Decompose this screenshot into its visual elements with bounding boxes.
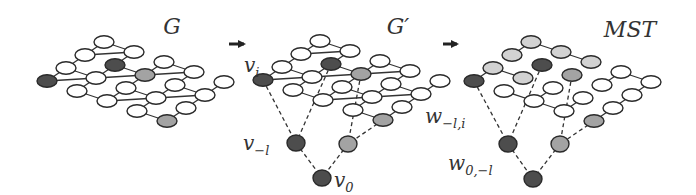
node-white [94,36,114,48]
node-white [214,76,234,88]
node-white [195,89,215,101]
diagram-canvas: GG′viv−lv0MSTw−l,iw0,−l [0,0,696,195]
node-gray [373,114,393,126]
node-white [302,71,322,83]
node-white [392,101,412,113]
panel-MST: MSTw−l,iw0,−l [425,17,661,187]
node-white [622,89,642,101]
nodes [253,35,450,186]
node-white [381,78,401,90]
node-white [291,48,311,60]
panel-G: G [37,14,234,127]
node-white [543,82,563,94]
node-white [340,45,360,57]
node-gray [351,68,371,80]
node-dark [105,59,125,71]
node-gray [584,115,604,127]
node-white [603,102,623,114]
node-white [611,66,631,78]
node-white [400,65,420,77]
node-dark [532,59,552,71]
node-white [343,104,363,116]
node-white [554,105,574,117]
node-light [513,72,533,84]
node-light [581,56,601,68]
node-white [97,95,117,107]
nodes [464,36,661,187]
node-label: v−l [243,131,269,158]
node-light [483,62,503,74]
node-white [362,91,382,103]
node-light [521,36,541,48]
node-dark [464,75,484,87]
node-white [272,61,292,73]
node-white [411,88,431,100]
node-white [75,49,95,61]
node-label: vi [244,53,259,80]
node-v_0 [313,170,331,186]
node-dark [37,75,57,87]
node-w3 [524,171,542,187]
node-white [494,85,514,97]
node-white [332,81,352,93]
node-white [86,72,106,84]
node-white [124,46,144,58]
node-gray [157,115,177,127]
node-white [67,85,87,97]
node-white [641,76,661,88]
node-white [310,35,330,47]
panel-title-G: G [163,14,181,39]
node-white [165,79,185,91]
node-label: w0,−l [448,151,493,178]
node-white [154,56,174,68]
node-w2 [551,136,569,152]
node-white [184,66,204,78]
node-w1 [499,136,517,152]
node-g1 [339,136,357,152]
node-white [370,55,390,67]
node-v_-l [287,135,305,151]
node-light [551,46,571,58]
node-white [430,75,450,87]
node-white [283,84,303,96]
node-white [573,92,593,104]
node-label: w−l,i [425,104,465,131]
node-gray [135,69,155,81]
node-dark [321,58,341,70]
node-white [127,105,147,117]
node-white [176,102,196,114]
panel-title-G-prime: G′ [387,14,410,39]
panel-title-MST: MST [603,17,659,42]
node-white [313,94,333,106]
node-white [592,79,612,91]
node-label: v0 [334,168,354,195]
panel-G-prime: G′viv−lv0 [243,14,450,195]
node-light [502,49,522,61]
node-white [524,95,544,107]
node-white [146,92,166,104]
mst-construction-diagram: GG′viv−lv0MSTw−l,iw0,−l [0,0,696,195]
node-white [56,62,76,74]
node-white [116,82,136,94]
node-gray [562,69,582,81]
